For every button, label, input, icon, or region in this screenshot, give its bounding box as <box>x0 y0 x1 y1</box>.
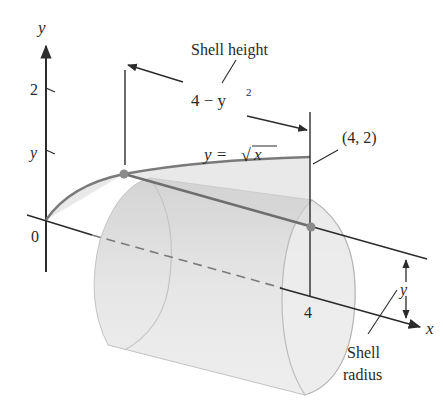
point-at-x4 <box>307 223 316 232</box>
radius-y-label: y <box>398 281 408 299</box>
curve-label-rhs: x <box>253 145 262 164</box>
shell-method-diagram: y 2 y 0 Shell height 4 − y 2 y = √ x (4,… <box>0 0 443 418</box>
curve-label-sqrt: √ <box>241 145 251 165</box>
x-axis-label: x <box>425 319 434 338</box>
height-expression-exponent: 2 <box>246 86 252 98</box>
y-tick-2-label: 2 <box>30 81 38 98</box>
shell-radius-label-line1: Shell <box>347 344 380 361</box>
origin-label: 0 <box>31 228 39 245</box>
shell-height-leader <box>222 60 236 83</box>
shell-radius-leader <box>368 290 397 334</box>
point-on-curve <box>120 170 129 179</box>
cylinder-shell <box>94 178 355 395</box>
height-expression-main: 4 − y <box>191 91 227 110</box>
point-leader <box>313 150 338 164</box>
height-arrow-right <box>247 116 307 130</box>
y-tick-y <box>46 150 55 154</box>
x-tick-4-label: 4 <box>304 304 312 321</box>
curve-label-lhs: y = <box>202 145 227 164</box>
shell-height-label: Shell height <box>191 41 268 59</box>
y-axis-label: y <box>36 18 46 37</box>
height-expression: 4 − y <box>191 91 227 110</box>
y-tick-2 <box>46 88 55 92</box>
height-arrow-left <box>128 65 183 82</box>
shell-radius-label-line2: radius <box>343 366 382 383</box>
point-label: (4, 2) <box>342 129 377 147</box>
y-tick-y-label: y <box>28 144 38 162</box>
